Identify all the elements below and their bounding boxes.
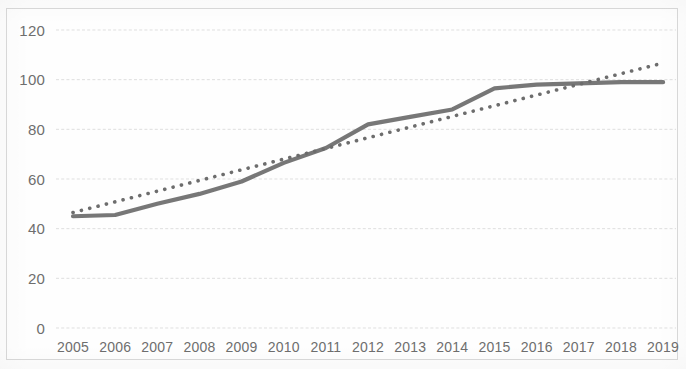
x-axis-tick-label: 2012 <box>352 339 384 355</box>
x-axis-tick-label: 2017 <box>563 339 595 355</box>
y-axis-tick-label: 20 <box>28 270 45 287</box>
x-axis-tick-label: 2008 <box>183 339 215 355</box>
y-axis-tick-label: 40 <box>28 220 45 237</box>
data-series-line <box>73 82 663 216</box>
gridlines <box>56 30 676 328</box>
y-axis-tick-label: 120 <box>19 22 45 39</box>
x-axis-tick-label: 2010 <box>268 339 300 355</box>
x-axis-tick-label: 2013 <box>394 339 426 355</box>
x-axis-tick-labels: 2005200620072008200920102011201220132014… <box>57 339 679 355</box>
x-axis-tick-label: 2011 <box>310 339 341 355</box>
x-axis-tick-label: 2005 <box>57 339 89 355</box>
y-axis-tick-label: 0 <box>36 320 45 337</box>
chart-container: 120100806040200 200520062007200820092010… <box>0 0 686 369</box>
x-axis-tick-label: 2009 <box>226 339 258 355</box>
x-axis-tick-label: 2015 <box>479 339 511 355</box>
x-axis-tick-label: 2007 <box>141 339 173 355</box>
x-axis-tick-label: 2019 <box>647 339 679 355</box>
x-axis-tick-label: 2016 <box>521 339 553 355</box>
x-axis-tick-label: 2014 <box>436 339 468 355</box>
x-axis-tick-label: 2018 <box>605 339 637 355</box>
y-axis-tick-labels: 120100806040200 <box>19 22 45 337</box>
x-axis-tick-label: 2006 <box>99 339 131 355</box>
line-chart: 120100806040200 200520062007200820092010… <box>0 0 686 369</box>
y-axis-tick-label: 100 <box>19 71 45 88</box>
y-axis-tick-label: 80 <box>28 121 45 138</box>
y-axis-tick-label: 60 <box>28 171 45 188</box>
